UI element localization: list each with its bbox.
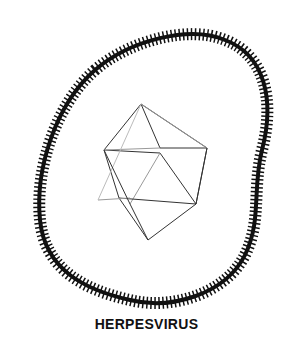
herpesvirus-diagram [0, 0, 293, 345]
capsid-icosahedron [98, 104, 207, 240]
envelope [39, 34, 267, 303]
diagram-title: HERPESVIRUS [0, 316, 293, 332]
